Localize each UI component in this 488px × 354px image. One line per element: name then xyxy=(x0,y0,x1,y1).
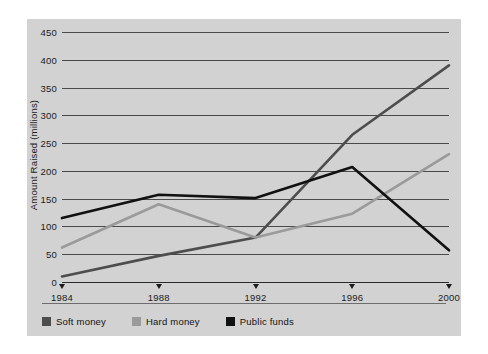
x-tick-label: 1992 xyxy=(236,292,276,303)
y-tick-label: 300 xyxy=(41,110,57,121)
legend-swatch-icon xyxy=(226,317,235,326)
x-tick: 1988 xyxy=(139,282,179,303)
x-tick-label: 2000 xyxy=(429,292,469,303)
y-tick-label: 250 xyxy=(41,138,57,149)
chart-figure: Amount Raised (millions) 050100150200250… xyxy=(0,0,488,354)
legend-divider xyxy=(42,303,446,304)
x-tick: 1996 xyxy=(332,282,372,303)
y-tick-label: 350 xyxy=(41,82,57,93)
legend-swatch-icon xyxy=(42,317,51,326)
series-line-soft-money xyxy=(62,65,449,276)
legend-label: Public funds xyxy=(240,316,294,327)
chart-legend: Soft moneyHard moneyPublic funds xyxy=(42,316,320,327)
tick-arrow-icon xyxy=(253,284,259,289)
y-tick-label: 400 xyxy=(41,54,57,65)
tick-arrow-icon xyxy=(349,284,355,289)
x-tick-label: 1988 xyxy=(139,292,179,303)
plot-area: 050100150200250300350400450 198419881992… xyxy=(62,32,449,282)
y-axis-label: Amount Raised (millions) xyxy=(28,100,39,210)
tick-arrow-icon xyxy=(156,284,162,289)
y-tick-label: 50 xyxy=(46,249,57,260)
legend-item-soft-money[interactable]: Soft money xyxy=(42,316,106,327)
y-tick-label: 100 xyxy=(41,221,57,232)
x-tick-label: 1996 xyxy=(332,292,372,303)
legend-item-public-funds[interactable]: Public funds xyxy=(226,316,294,327)
y-tick-label: 200 xyxy=(41,165,57,176)
tick-arrow-icon xyxy=(59,284,65,289)
x-tick: 1984 xyxy=(42,282,82,303)
legend-label: Hard money xyxy=(146,316,200,327)
legend-item-hard-money[interactable]: Hard money xyxy=(132,316,200,327)
x-tick-label: 1984 xyxy=(42,292,82,303)
legend-label: Soft money xyxy=(56,316,106,327)
y-tick-label: 450 xyxy=(41,27,57,38)
legend-swatch-icon xyxy=(132,317,141,326)
x-tick: 1992 xyxy=(236,282,276,303)
tick-arrow-icon xyxy=(446,284,452,289)
series-lines xyxy=(62,32,449,282)
x-tick: 2000 xyxy=(429,282,469,303)
y-tick-label: 150 xyxy=(41,193,57,204)
